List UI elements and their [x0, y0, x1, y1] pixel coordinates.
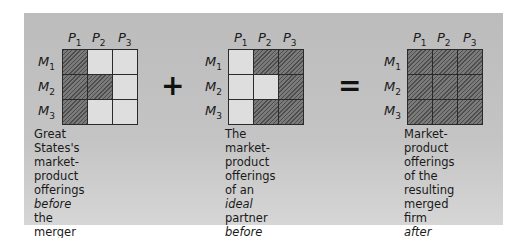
row-label-m3: M3 — [38, 103, 55, 121]
not-offered-cell — [113, 100, 137, 124]
not-offered-cell — [113, 50, 137, 74]
offered-cell — [458, 50, 482, 74]
offered-cell — [433, 75, 457, 99]
not-offered-cell — [229, 50, 253, 74]
col-label-p3: P3 — [463, 30, 477, 48]
offered-cell — [254, 50, 278, 74]
not-offered-cell — [229, 100, 253, 124]
col-label-p2: P2 — [258, 30, 272, 48]
offered-cell — [63, 100, 87, 124]
matrix-grid — [407, 49, 483, 125]
caption-line: market-product — [34, 155, 85, 183]
offered-cell — [279, 50, 303, 74]
row-label-m1: M1 — [38, 54, 55, 72]
offered-cell — [63, 75, 87, 99]
offered-cell — [433, 100, 457, 124]
plus-operator: + — [161, 69, 184, 102]
caption-line: Market-product — [404, 127, 455, 155]
offered-cell — [458, 100, 482, 124]
offered-cell — [279, 75, 303, 99]
not-offered-cell — [88, 50, 112, 74]
caption-line: offerings before — [34, 183, 85, 211]
col-label-p1: P1 — [413, 30, 427, 48]
offered-cell — [433, 50, 457, 74]
caption-line: the merger — [34, 211, 85, 238]
caption-line: offerings of an ideal — [225, 169, 276, 211]
row-label-m1: M1 — [205, 54, 222, 72]
offered-cell — [458, 75, 482, 99]
not-offered-cell — [254, 75, 278, 99]
not-offered-cell — [113, 75, 137, 99]
caption-line: firm after — [404, 211, 455, 238]
col-label-p3: P3 — [118, 30, 132, 48]
offered-cell — [279, 100, 303, 124]
caption-merged-firm: Market-product offerings of the resultin… — [404, 127, 455, 238]
offered-cell — [408, 100, 432, 124]
caption-line: resulting merged — [404, 183, 455, 211]
row-label-m1: M1 — [384, 54, 401, 72]
row-label-m2: M2 — [384, 79, 401, 97]
row-label-m2: M2 — [38, 79, 55, 97]
offered-cell — [88, 75, 112, 99]
offered-cell — [63, 50, 87, 74]
matrix-grid — [228, 49, 304, 125]
caption-line: The market-product — [225, 127, 276, 169]
matrix-grid — [62, 49, 138, 125]
equals-operator: = — [338, 69, 361, 102]
col-label-p3: P3 — [283, 30, 297, 48]
offered-cell — [408, 50, 432, 74]
not-offered-cell — [229, 75, 253, 99]
caption-line: partner before — [225, 211, 276, 238]
caption-line: offerings of the — [404, 155, 455, 183]
row-label-m3: M3 — [205, 103, 222, 121]
row-label-m2: M2 — [205, 79, 222, 97]
col-label-p1: P1 — [234, 30, 248, 48]
col-label-p1: P1 — [68, 30, 82, 48]
col-label-p2: P2 — [92, 30, 106, 48]
caption-great-states: Great States's market-product offerings … — [34, 127, 85, 238]
not-offered-cell — [88, 100, 112, 124]
caption-line: Great States's — [34, 127, 85, 155]
row-label-m3: M3 — [384, 103, 401, 121]
offered-cell — [408, 75, 432, 99]
col-label-p2: P2 — [437, 30, 451, 48]
caption-ideal-partner: The market-product offerings of an ideal… — [225, 127, 276, 238]
offered-cell — [254, 100, 278, 124]
